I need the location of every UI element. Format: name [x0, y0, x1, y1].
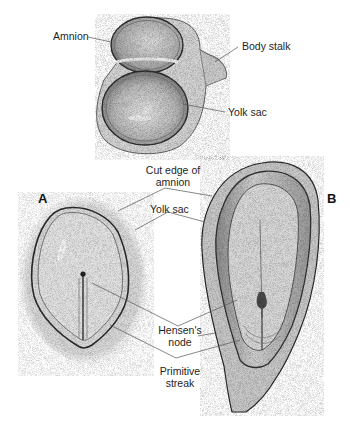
panel-b-illustration: [200, 156, 324, 416]
top-embryo-illustration: [95, 14, 230, 160]
label-hensens-node: Hensen's node: [150, 324, 210, 348]
panel-label-b: B: [327, 191, 336, 206]
label-cut-edge-line1: Cut edge of: [138, 164, 208, 176]
label-primitive-streak: Primitive streak: [150, 365, 210, 389]
panel-a-illustration: [18, 192, 154, 376]
label-body-stalk: Body stalk: [242, 40, 290, 52]
embryology-figure: Amnion Body stalk Yolk sac A B Cut edge …: [0, 0, 350, 426]
label-primitive-line2: streak: [150, 377, 210, 389]
label-cut-edge-line2: amnion: [138, 176, 208, 188]
label-amnion: Amnion: [53, 30, 89, 42]
label-yolk-sac-top: Yolk sac: [228, 106, 267, 118]
label-hensens-line1: Hensen's: [150, 324, 210, 336]
label-cut-edge-amnion: Cut edge of amnion: [138, 164, 208, 188]
label-primitive-line1: Primitive: [150, 365, 210, 377]
label-yolk-sac-shared: Yolk sac: [150, 203, 189, 215]
panel-label-a: A: [38, 191, 47, 206]
label-hensens-line2: node: [150, 336, 210, 348]
